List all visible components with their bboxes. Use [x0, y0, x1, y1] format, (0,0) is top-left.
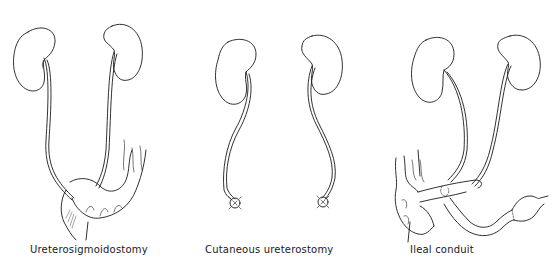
right-kidney: [104, 24, 143, 80]
right-kidney: [498, 35, 541, 90]
panel-cutaneous-ureterostomy: [216, 35, 343, 209]
panel-ileal-conduit: [395, 35, 548, 242]
left-ureter: [44, 58, 72, 200]
caption-cutaneous-ureterostomy: Cutaneous ureterostomy: [205, 244, 333, 255]
caption-ureterosigmoidostomy: Ureterosigmoidostomy: [30, 244, 148, 255]
sigmoid-colon: [70, 150, 132, 191]
caption-ileal-conduit: Ileal conduit: [410, 244, 474, 255]
right-ureter: [308, 66, 332, 198]
left-kidney: [412, 37, 454, 102]
right-ureter: [472, 64, 508, 184]
panel-ureterosigmoidostomy: [14, 24, 146, 240]
ileal-segment: [418, 180, 482, 192]
right-ureter: [96, 52, 114, 186]
left-ureter: [444, 70, 464, 180]
figure-canvas: [0, 0, 554, 268]
colon: [395, 158, 434, 234]
left-kidney: [14, 28, 56, 91]
left-kidney: [216, 39, 256, 104]
